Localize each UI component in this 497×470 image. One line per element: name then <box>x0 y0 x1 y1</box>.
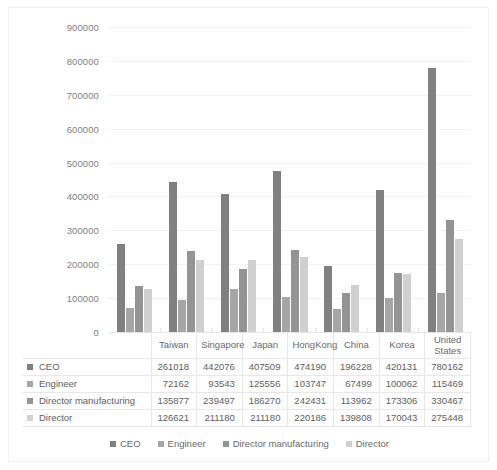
bar-group-korea <box>368 27 420 332</box>
bar[interactable] <box>221 194 229 332</box>
table-cell-value: 275448 <box>425 410 471 427</box>
table-row: Director12662121118021118022018613980817… <box>23 410 471 427</box>
plot-area <box>109 27 471 332</box>
y-axis-tick-label: 100000 <box>67 293 99 304</box>
table-cell-value: 170043 <box>379 410 425 427</box>
table-cell-value: 103747 <box>288 376 334 393</box>
bar[interactable] <box>437 293 445 332</box>
bar-group-singapore <box>161 27 213 332</box>
table-cell-value: 113962 <box>334 393 380 410</box>
y-axis-tick-label: 800000 <box>67 55 99 66</box>
y-axis-tick-label: 500000 <box>67 157 99 168</box>
table-cell-value: 220186 <box>288 410 334 427</box>
legend-item-label: Director manufacturing <box>233 438 329 449</box>
table-cell-value: 126621 <box>151 410 197 427</box>
bar[interactable] <box>351 285 359 332</box>
legend-item[interactable]: Director manufacturing <box>223 438 329 449</box>
table-row-label-text: Engineer <box>39 378 77 389</box>
table-cell-value: 330467 <box>425 393 471 410</box>
series-swatch-icon <box>27 364 33 370</box>
bar-group-taiwan <box>109 27 161 332</box>
legend-swatch-icon <box>158 441 164 447</box>
bar-groups <box>109 27 471 332</box>
legend-item[interactable]: Director <box>346 438 389 449</box>
bar[interactable] <box>282 297 290 332</box>
bar[interactable] <box>273 171 281 332</box>
bar[interactable] <box>291 250 299 332</box>
table-body: CEO2610184420764075094741901962284201317… <box>23 359 471 427</box>
table-column-header: United States <box>425 333 471 359</box>
bar[interactable] <box>333 309 341 332</box>
chart-legend: CEOEngineerDirector manufacturingDirecto… <box>9 438 490 449</box>
table-row-label: Director manufacturing <box>23 393 151 410</box>
table-cell-value: 173306 <box>379 393 425 410</box>
y-axis-tick-label: 400000 <box>67 191 99 202</box>
legend-swatch-icon <box>223 441 229 447</box>
table-column-header: Korea <box>379 333 425 359</box>
bar[interactable] <box>117 244 125 332</box>
table-column-header: China <box>334 333 380 359</box>
table-row-label-text: CEO <box>39 361 60 372</box>
table-cell-value: 93543 <box>197 376 243 393</box>
table-cell-value: 780162 <box>425 359 471 376</box>
bar[interactable] <box>342 293 350 332</box>
table-cell-value: 239497 <box>197 393 243 410</box>
data-table: TaiwanSingaporeJapanHongKongChinaKoreaUn… <box>23 332 471 427</box>
table-cell-value: 211180 <box>242 410 288 427</box>
table-cell-value: 196228 <box>334 359 380 376</box>
bar[interactable] <box>394 273 402 332</box>
legend-item-label: Director <box>356 438 389 449</box>
table-corner-cell <box>23 333 151 359</box>
table-cell-value: 67499 <box>334 376 380 393</box>
bar[interactable] <box>403 274 411 332</box>
table-row: Engineer72162935431255561037476749910006… <box>23 376 471 393</box>
table-column-header: Singapore <box>197 333 243 359</box>
table-header: TaiwanSingaporeJapanHongKongChinaKoreaUn… <box>23 333 471 359</box>
bar-group-japan <box>212 27 264 332</box>
bar[interactable] <box>376 190 384 332</box>
legend-item[interactable]: CEO <box>110 438 141 449</box>
table-cell-value: 115469 <box>425 376 471 393</box>
bar[interactable] <box>169 182 177 332</box>
bar-group-united-states <box>419 27 471 332</box>
table-cell-value: 474190 <box>288 359 334 376</box>
bar-group-china <box>316 27 368 332</box>
bar[interactable] <box>196 260 204 332</box>
bar[interactable] <box>239 269 247 332</box>
bar[interactable] <box>187 251 195 332</box>
table-row-label: CEO <box>23 359 151 376</box>
table-column-header: Japan <box>242 333 288 359</box>
y-axis-tick-label: 700000 <box>67 89 99 100</box>
y-axis-tick-labels: 9000008000007000006000005000004000003000… <box>9 27 105 332</box>
legend-item-label: CEO <box>120 438 141 449</box>
bar[interactable] <box>385 298 393 332</box>
table-cell-value: 407509 <box>242 359 288 376</box>
table-cell-value: 211180 <box>197 410 243 427</box>
table-cell-value: 242431 <box>288 393 334 410</box>
legend-item[interactable]: Engineer <box>158 438 206 449</box>
bar[interactable] <box>144 289 152 332</box>
y-axis-tick-label: 900000 <box>67 22 99 33</box>
table-cell-value: 135877 <box>151 393 197 410</box>
bar[interactable] <box>126 308 134 332</box>
bar[interactable] <box>324 266 332 332</box>
series-swatch-icon <box>27 381 33 387</box>
table-row: CEO2610184420764075094741901962284201317… <box>23 359 471 376</box>
table-row: Director manufacturing135877239497186270… <box>23 393 471 410</box>
legend-swatch-icon <box>110 441 116 447</box>
bar[interactable] <box>135 286 143 332</box>
bar[interactable] <box>178 300 186 332</box>
table-row-label-text: Director <box>39 412 72 423</box>
table-cell-value: 442076 <box>197 359 243 376</box>
bar[interactable] <box>446 220 454 332</box>
bar-group-hongkong <box>264 27 316 332</box>
table-cell-value: 261018 <box>151 359 197 376</box>
legend-swatch-icon <box>346 441 352 447</box>
bar[interactable] <box>300 257 308 332</box>
series-swatch-icon <box>27 398 33 404</box>
bar[interactable] <box>428 68 436 332</box>
bar[interactable] <box>248 260 256 332</box>
table-column-header: HongKong <box>288 333 334 359</box>
bar[interactable] <box>230 289 238 332</box>
bar[interactable] <box>455 239 463 332</box>
